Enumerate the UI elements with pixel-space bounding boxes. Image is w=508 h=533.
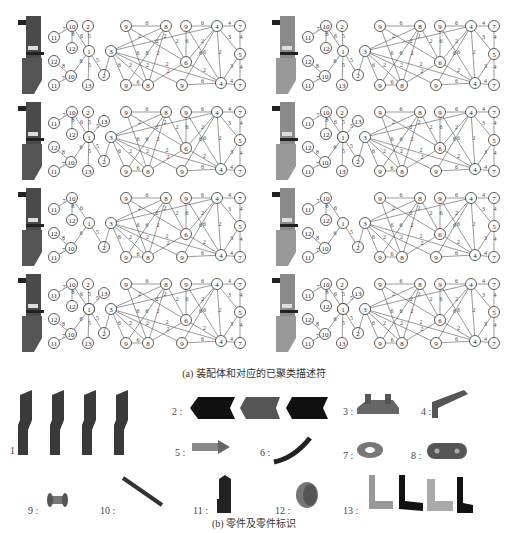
svg-text:11: 11 bbox=[51, 34, 58, 42]
part-3-image bbox=[355, 392, 400, 421]
edge-weight: 2 bbox=[166, 61, 169, 67]
edge-weight: 6 bbox=[400, 20, 403, 26]
edge-weight: 6 bbox=[186, 124, 189, 130]
graph-node: 12 bbox=[321, 43, 332, 54]
graph-node: 8 bbox=[143, 338, 154, 349]
graph-node: 4 bbox=[466, 21, 477, 32]
edge-weight: 6 bbox=[453, 50, 456, 56]
edge-weight: 6 bbox=[146, 222, 149, 228]
svg-text:1: 1 bbox=[341, 306, 345, 314]
svg-text:6: 6 bbox=[184, 317, 188, 325]
edge-weight: 2 bbox=[157, 50, 160, 56]
edge-weight: 2 bbox=[219, 221, 222, 227]
edge-weight: 2 bbox=[400, 320, 403, 326]
left-cluster-graph: 78656558710211121121021113 bbox=[303, 21, 364, 91]
graph-node: 3 bbox=[106, 132, 117, 143]
edge-weight: 8 bbox=[62, 149, 65, 155]
edge-weight: 2 bbox=[166, 233, 169, 239]
graph-node: 4 bbox=[470, 164, 481, 175]
edge-weight: 6 bbox=[137, 79, 140, 85]
edge-weight: 2 bbox=[146, 234, 149, 240]
svg-text:12: 12 bbox=[323, 45, 331, 53]
edge-weight: 5 bbox=[350, 123, 353, 129]
graph-node: 2 bbox=[83, 21, 94, 32]
graph-node: 3 bbox=[360, 132, 371, 143]
svg-text:5: 5 bbox=[492, 223, 496, 231]
edge-weight: 6 bbox=[372, 148, 375, 154]
svg-text:4: 4 bbox=[215, 23, 219, 31]
graph-node: 10 bbox=[66, 157, 77, 168]
svg-text:4: 4 bbox=[473, 338, 477, 346]
edge-weight: 2 bbox=[167, 240, 170, 246]
svg-text:1: 1 bbox=[87, 306, 91, 314]
svg-text:11: 11 bbox=[51, 340, 58, 348]
svg-text:2: 2 bbox=[102, 330, 106, 338]
edge-weight: 6 bbox=[400, 106, 403, 112]
left-cluster-graph: 786658710111211210211 bbox=[0, 174, 110, 263]
edge-weight: 2 bbox=[411, 50, 414, 56]
edge-weight: 4 bbox=[240, 206, 243, 212]
edge-weight: 2 bbox=[129, 320, 132, 326]
svg-text:2: 2 bbox=[86, 281, 90, 289]
part-7-label: 7 : bbox=[343, 450, 353, 461]
graph-node: 8 bbox=[397, 338, 408, 349]
edge-weight: 5 bbox=[88, 62, 91, 68]
edge-weight: 5 bbox=[342, 119, 345, 125]
svg-text:4: 4 bbox=[215, 195, 219, 203]
caption-a: (a) 装配体和对应的已聚类描述符 bbox=[0, 365, 508, 380]
graph-node: 12 bbox=[67, 129, 78, 140]
graph-node: 12 bbox=[303, 142, 314, 153]
edge-weight: 8 bbox=[72, 289, 75, 295]
svg-text:9: 9 bbox=[124, 195, 128, 203]
edge-weight: 8 bbox=[326, 31, 329, 37]
graph-node: 7 bbox=[489, 193, 500, 204]
svg-text:12: 12 bbox=[305, 58, 313, 66]
assembly-panel-r4c1: 7865655871021112112102111351136644446622… bbox=[0, 260, 254, 348]
edge-weight: 6 bbox=[372, 234, 375, 240]
edge-weight: 6 bbox=[199, 136, 202, 142]
edge-weight: 4 bbox=[240, 150, 243, 156]
graph-node: 6 bbox=[435, 143, 446, 154]
edge-weight: 6 bbox=[146, 192, 149, 198]
graph-node: 5 bbox=[489, 135, 500, 146]
graph-node: 4 bbox=[470, 250, 481, 261]
svg-text:9: 9 bbox=[378, 281, 382, 289]
graph-node: 9 bbox=[121, 338, 132, 349]
svg-text:9: 9 bbox=[378, 23, 382, 31]
graph-node: 7 bbox=[235, 21, 246, 32]
edge-weight: 3 bbox=[230, 321, 233, 327]
edge-weight: 2 bbox=[166, 147, 169, 153]
edge-weight: 2 bbox=[455, 124, 458, 130]
svg-text:2: 2 bbox=[356, 72, 360, 80]
edge-weight: 2 bbox=[146, 148, 149, 154]
svg-text:11: 11 bbox=[51, 206, 58, 214]
graph-node: 10 bbox=[320, 157, 331, 168]
assembly-panel-r1c2: 7865655871021112112102111366444466226222… bbox=[254, 2, 508, 90]
graph-node: 13 bbox=[83, 338, 94, 349]
edge-weight: 2 bbox=[129, 62, 132, 68]
svg-text:4: 4 bbox=[469, 23, 473, 31]
svg-text:11: 11 bbox=[51, 120, 58, 128]
edge-weight: 3 bbox=[484, 235, 487, 241]
svg-text:8: 8 bbox=[164, 23, 168, 31]
edge-weight: 2 bbox=[430, 38, 433, 44]
graph-node: 5 bbox=[235, 307, 246, 318]
edge-weight: 6 bbox=[146, 50, 149, 56]
edge-weight: 8 bbox=[72, 117, 75, 123]
graph-node: 3 bbox=[106, 218, 117, 229]
svg-text:10: 10 bbox=[322, 245, 330, 253]
edge-weight: 6 bbox=[118, 234, 121, 240]
edge-weight: 6 bbox=[455, 78, 458, 84]
svg-text:10: 10 bbox=[323, 195, 331, 203]
svg-text:2: 2 bbox=[86, 109, 90, 117]
edge-weight: 8 bbox=[326, 117, 329, 123]
graph-node: 3 bbox=[360, 218, 371, 229]
graph-node: 13 bbox=[353, 116, 364, 127]
edge-weight: 6 bbox=[455, 20, 458, 26]
edge-weight: 4 bbox=[230, 78, 233, 84]
edge-weight: 4 bbox=[484, 164, 487, 170]
part-6-image bbox=[270, 436, 315, 470]
svg-text:4: 4 bbox=[219, 80, 223, 88]
right-cluster-graph: 6644446622622226262662623322989473659894… bbox=[360, 278, 500, 349]
graph-node: 4 bbox=[216, 336, 227, 347]
